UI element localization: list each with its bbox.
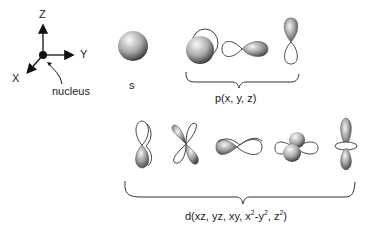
s-orbital-label: s xyxy=(129,79,135,91)
p-orbitals xyxy=(186,18,299,88)
nucleus-label: nucleus xyxy=(52,85,90,97)
x-axis-label: X xyxy=(12,72,19,84)
dz2-orbital-icon xyxy=(335,118,357,170)
dx2-y2-orbital-icon xyxy=(275,132,318,162)
pz-orbital-icon xyxy=(284,18,298,64)
s-orbital-icon xyxy=(118,31,148,61)
dxy-orbital-icon xyxy=(216,138,262,154)
d-orbital-label: d(xz, yz, xy, x2-y2, z2) xyxy=(185,209,287,222)
dxz-orbital-icon xyxy=(136,121,152,168)
nucleus-dot xyxy=(39,51,47,59)
d-brace xyxy=(125,181,355,204)
z-axis-label: Z xyxy=(39,8,46,20)
py-orbital-icon xyxy=(222,41,268,56)
p-brace xyxy=(186,72,299,88)
orbital-diagram xyxy=(0,0,366,236)
dyz-orbital-icon xyxy=(172,123,198,164)
y-axis-label: Y xyxy=(80,48,87,60)
p-orbital-label: p(x, y, z) xyxy=(215,92,256,104)
nucleus-pointer xyxy=(49,64,62,84)
d-orbitals xyxy=(125,118,357,204)
coordinate-axes xyxy=(28,26,72,84)
nucleus-pointer-head xyxy=(47,62,52,66)
px-orbital-icon xyxy=(186,29,218,64)
